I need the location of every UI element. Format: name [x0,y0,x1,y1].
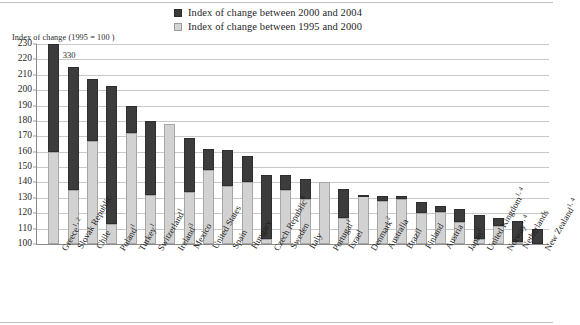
plot-wrapper: 2302202102001901801701601501401301201101… [0,44,553,244]
bar-portugal[interactable] [319,44,330,244]
bar-segment-2000-2004 [377,196,388,201]
bar-israel[interactable] [338,44,349,244]
bar-segment-2000-2004 [396,196,407,199]
bar-segment-2000-2004 [358,195,369,197]
x-axis-category-labels: Greece1, 2Slovak RepublicChilePoland1Tur… [36,246,549,325]
bar-hungary[interactable] [242,44,253,244]
y-tick-label-180: 180 [18,116,32,126]
y-axis-tick-labels: 2302202102001901801701601501401301201101… [0,44,36,244]
bar-segment-2000-2004 [454,209,465,223]
bar-segment-2000-2004 [222,150,233,185]
bar-united-kingdom[interactable] [474,44,485,244]
bar-switzerland[interactable] [145,44,156,244]
frame-top-rule [0,2,553,3]
y-tick-label-130: 130 [18,193,32,203]
bar-value-annotation: 330 [63,50,76,60]
y-tick-label-230: 230 [18,39,32,49]
bar-segment-2000-2004 [338,189,349,218]
legend-label-1995-2000: Index of change between 1995 and 2000 [188,21,362,32]
bar-segment-2000-2004 [203,149,214,171]
bar-segment-2000-2004 [145,121,156,195]
bar-brazil[interactable] [396,44,407,244]
bar-denmark[interactable] [358,44,369,244]
y-tick-label-210: 210 [18,70,32,80]
chart-legend: Index of change between 2000 and 2004 In… [174,6,474,34]
y-tick-label-190: 190 [18,101,32,111]
bar-segment-2000-2004 [126,106,137,134]
bar-segment-1995-2000 [48,152,59,244]
y-tick-label-120: 120 [18,208,32,218]
legend-swatch-dark-icon [174,9,182,17]
y-tick-label-150: 150 [18,162,32,172]
y-tick-label-110: 110 [18,224,32,234]
bar-united-states[interactable] [203,44,214,244]
bar-poland[interactable] [106,44,117,244]
bar-segment-2000-2004 [435,206,446,212]
bar-segment-2000-2004 [242,156,253,182]
bar-segment-2000-2004 [48,44,59,152]
bar-japan[interactable] [454,44,465,244]
bar-segment-2000-2004 [68,67,79,190]
y-tick-label-140: 140 [18,178,32,188]
bar-segment-2000-2004 [416,202,427,213]
bar-segment-2000-2004 [184,138,195,192]
bar-slovak-republic[interactable] [68,44,79,244]
legend-swatch-light-icon [174,23,182,31]
bar-turkey[interactable] [126,44,137,244]
bar-segment-2000-2004 [87,79,98,141]
legend-item-1995-2000: Index of change between 1995 and 2000 [174,20,474,33]
bar-segment-2000-2004 [280,175,291,190]
bar-austria[interactable] [435,44,446,244]
bar-finland[interactable] [416,44,427,244]
bar-greece[interactable] [48,44,59,244]
y-tick-label-170: 170 [18,132,32,142]
legend-item-2000-2004: Index of change between 2000 and 2004 [174,6,474,19]
y-tick-label-160: 160 [18,147,32,157]
legend-label-2000-2004: Index of change between 2000 and 2004 [188,7,362,18]
y-tick-label-100: 100 [18,239,32,249]
y-tick-label-200: 200 [18,85,32,95]
y-tick-label-220: 220 [18,55,32,65]
bar-czech-republic[interactable] [261,44,272,244]
bar-australia[interactable] [377,44,388,244]
